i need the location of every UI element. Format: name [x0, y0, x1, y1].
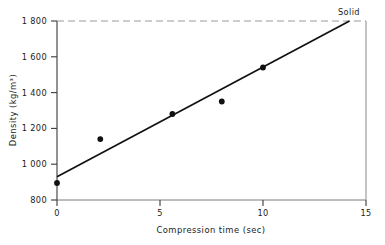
linear-fit-line	[57, 21, 350, 177]
y-tick-label-1200: 1 200	[22, 123, 47, 133]
y-tick-label-1000: 1 000	[22, 159, 47, 169]
x-tick-label-0: 0	[54, 208, 60, 218]
x-axis-tick-labels: 0 5 10 15	[54, 208, 371, 218]
y-axis-ticks	[51, 21, 57, 200]
scatter-plot: 1 800 1 600 1 400 1 200 1 000 800 0 5 10…	[0, 0, 385, 245]
x-axis-ticks	[57, 200, 366, 206]
data-point	[219, 99, 225, 105]
chart-figure: 1 800 1 600 1 400 1 200 1 000 800 0 5 10…	[0, 0, 385, 245]
plot-frame	[57, 21, 366, 200]
x-axis-title: Compression time (sec)	[156, 225, 265, 235]
x-tick-label-5: 5	[157, 208, 163, 218]
x-tick-label-15: 15	[360, 208, 371, 218]
solid-annotation-label: Solid	[338, 7, 360, 17]
y-tick-label-1600: 1 600	[22, 52, 47, 62]
data-point	[260, 65, 266, 71]
data-point	[97, 136, 103, 142]
data-point	[54, 180, 60, 186]
y-tick-label-800: 800	[30, 195, 47, 205]
data-point	[170, 111, 176, 117]
y-tick-label-1400: 1 400	[22, 88, 47, 98]
y-tick-label-1800: 1 800	[22, 16, 47, 26]
y-axis-title: Density (kg/m³)	[8, 74, 18, 146]
y-axis-tick-labels: 1 800 1 600 1 400 1 200 1 000 800	[22, 16, 47, 205]
x-tick-label-10: 10	[257, 208, 268, 218]
